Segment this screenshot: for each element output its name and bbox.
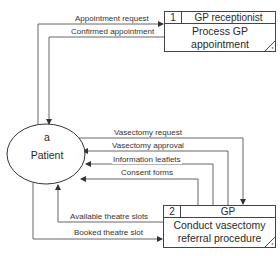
process-2-name-line2: referral procedure: [164, 232, 275, 245]
flow-label-booked-theatre-slot: Booked theatre slot: [73, 228, 144, 237]
process-2-id: 2: [164, 206, 181, 217]
entity-name: Patient: [7, 148, 87, 162]
flow-label-confirmed-appointment: Confirmed appointment: [70, 27, 155, 36]
flow-label-vasectomy-request: Vasectomy request: [113, 128, 183, 137]
process-1-actor: GP receptionist: [182, 12, 275, 23]
external-entity-patient: a Patient: [7, 131, 87, 162]
process-2-header: 2 GP: [164, 206, 275, 218]
process-1-name-line1: Process GP: [165, 25, 275, 38]
corner-mark-icon: *: [265, 41, 275, 51]
process-1-id: 1: [165, 12, 182, 23]
svg-text:*: *: [272, 242, 274, 248]
process-1-name-line2: appointment: [165, 38, 275, 51]
entity-id: a: [7, 131, 87, 144]
process-box-1: 1 GP receptionist Process GP appointment…: [164, 11, 276, 52]
flow-appointment-request-line: [38, 24, 163, 127]
process-2-name: Conduct vasectomy referral procedure: [164, 218, 275, 245]
flow-confirmed-appointment-line: [49, 37, 164, 124]
process-2-name-line1: Conduct vasectomy: [164, 219, 275, 232]
process-box-2: 2 GP Conduct vasectomy referral procedur…: [163, 205, 276, 248]
process-1-header: 1 GP receptionist: [165, 12, 275, 24]
process-2-actor: GP: [181, 206, 275, 217]
svg-text:*: *: [272, 46, 274, 52]
flow-consent-forms-line: [81, 179, 198, 205]
data-flow-diagram: a Patient 1 GP receptionist Process GP a…: [0, 0, 280, 256]
flow-label-consent-forms: Consent forms: [120, 168, 174, 177]
flow-label-vasectomy-approval: Vasectomy approval: [111, 141, 185, 150]
flow-label-information-leaflets: Information leaflets: [112, 155, 182, 164]
flow-label-available-theatre-slots: Available theatre slots: [69, 212, 149, 221]
process-1-name: Process GP appointment: [165, 24, 275, 51]
flow-label-appointment-request: Appointment request: [74, 14, 150, 23]
corner-mark-icon: *: [265, 237, 275, 247]
